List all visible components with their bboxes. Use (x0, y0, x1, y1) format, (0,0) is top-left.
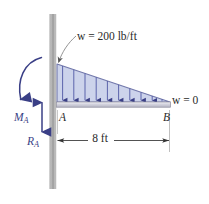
moment-reaction-label: MA (14, 112, 29, 125)
statics-cantilever-diagram: w = 200 lb/ft w = 0 A B MA RA 8 ft (0, 0, 209, 204)
force-reaction-symbol: R (27, 135, 34, 147)
beam-member (57, 102, 171, 107)
fixed-support-wall (50, 14, 57, 189)
load-intensity-label: w = 200 lb/ft (77, 31, 137, 43)
moment-reaction-symbol: M (14, 111, 24, 123)
moment-reaction-subscript: A (24, 116, 29, 125)
load-end-label: w = 0 (172, 95, 198, 107)
point-b-label: B (163, 112, 170, 124)
load-label-leader-line (59, 36, 76, 62)
span-dimension-label: 8 ft (92, 133, 108, 145)
moment-reaction-arrow (20, 58, 42, 100)
point-a-label: A (59, 112, 66, 124)
force-reaction-subscript: A (34, 140, 39, 149)
span-dimension (58, 110, 170, 152)
force-reaction-label: RA (27, 136, 39, 149)
